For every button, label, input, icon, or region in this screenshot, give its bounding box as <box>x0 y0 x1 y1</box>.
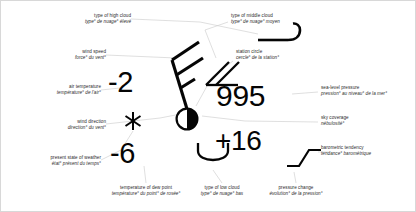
label-type-of-middle-cloud: type of middle cloud type° de nuage° moy… <box>231 13 321 24</box>
label-text-fr: type° de nuage° bas <box>187 191 257 197</box>
label-text-fr: nébulosité° <box>321 121 401 127</box>
label-wind-direction: wind direction direction° du vent° <box>26 119 106 130</box>
label-text-fr: type° de nuage° élevé <box>51 19 131 25</box>
label-air-temperature: air temperature température° de l'air° <box>21 84 101 95</box>
label-text-fr: état° présent du temps° <box>6 161 101 167</box>
label-present-state-of-weather: present state of weather état° présent d… <box>6 155 101 166</box>
label-wind-speed: wind speed force° du vent° <box>31 49 106 60</box>
label-sea-level-pressure: sea-level pressure pression° au niveau° … <box>321 85 415 96</box>
value-dew-point: -6 <box>110 137 135 170</box>
label-barometric-tendency: barometric tendency tendance° barométriq… <box>321 145 411 156</box>
label-sky-coverage: sky coverage nébulosité° <box>321 115 401 126</box>
station-circle-symbol <box>177 109 198 130</box>
value-pressure-change: +16 <box>215 125 262 157</box>
label-temperature-of-dew-point: temperature of dew point température° du… <box>96 185 196 196</box>
value-sea-level-pressure: 995 <box>216 79 265 113</box>
label-text-fr: pression° au niveau° de la mer° <box>321 91 415 97</box>
label-text-fr: type° de nuage° moyen <box>231 19 321 25</box>
label-text-fr: température° du point° de rosée° <box>96 191 196 197</box>
high-cloud-symbol <box>258 23 300 40</box>
label-text-fr: évolution° de la pression° <box>259 191 333 197</box>
label-station-circle: station circle cercle° de la station° <box>236 49 321 60</box>
present-weather-snow-symbol <box>126 112 141 130</box>
label-type-of-high-cloud: type of high cloud type° de nuage° élevé <box>51 13 131 24</box>
label-text-fr: cercle° de la station° <box>236 55 321 61</box>
wind-barb-symbol <box>172 42 203 109</box>
label-pressure-change: pressure change évolution° de la pressio… <box>259 185 333 196</box>
label-text-fr: tendance° barométrique <box>321 151 411 157</box>
label-text-fr: température° de l'air° <box>21 90 101 96</box>
value-air-temperature: -2 <box>108 66 133 99</box>
label-text-fr: direction° du vent° <box>26 125 106 131</box>
label-text-fr: force° du vent° <box>31 55 106 61</box>
barometric-tendency-symbol <box>287 150 321 166</box>
label-type-of-low-cloud: type of low cloud type° de nuage° bas <box>187 185 257 196</box>
